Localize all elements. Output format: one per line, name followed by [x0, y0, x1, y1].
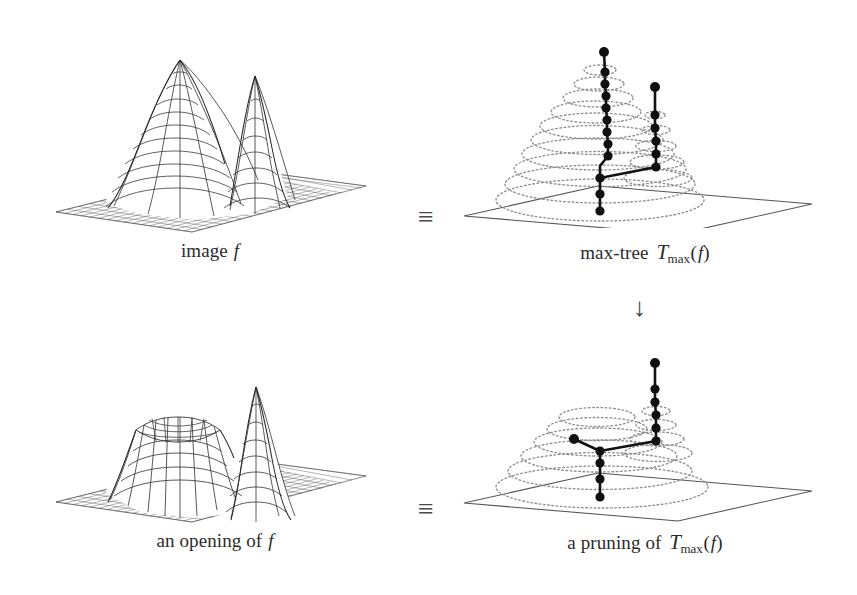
caption-max-tree-subscript: max: [668, 251, 691, 266]
caption-image-f-var: f: [233, 240, 239, 261]
tree-node: [650, 397, 659, 406]
tree-node: [651, 436, 660, 445]
tree-node: [595, 446, 604, 455]
pruned-base-plane: [464, 473, 812, 521]
max-tree-svg: [450, 28, 830, 228]
caption-opening-text: an opening of: [156, 530, 262, 551]
tree-node: [595, 474, 604, 483]
caption-pruning-paren-close: ): [716, 532, 722, 553]
tree-node: [650, 358, 660, 368]
tree-node: [595, 189, 604, 198]
caption-max-tree-symbol: T: [653, 240, 667, 264]
caption-opening: an opening of f: [95, 530, 335, 552]
tree-node: [650, 123, 659, 132]
opening-surface-svg: [44, 340, 374, 530]
caption-image-f-text: image: [181, 240, 228, 261]
opening-surface-panel: [44, 340, 374, 530]
caption-max-tree-text: max-tree: [580, 242, 648, 263]
tree-node: [595, 458, 604, 467]
tree-node: [603, 139, 612, 148]
max-tree-panel: [450, 28, 830, 228]
caption-max-tree: max-tree Tmax(f): [520, 240, 770, 267]
tree-node: [650, 82, 660, 92]
equivalence-symbol-bottom: ≡: [418, 495, 434, 523]
pruned-max-tree-svg: [450, 345, 830, 530]
figure-root: image f ≡: [0, 0, 857, 595]
caption-pruning-paren-open: (: [703, 532, 709, 553]
tree-node: [650, 384, 659, 393]
pruning-arrow: ↓: [633, 295, 646, 321]
image-surface-panel: [44, 18, 374, 236]
tree-node: [651, 149, 660, 158]
caption-pruning-text: a pruning of: [567, 532, 661, 553]
tree-node: [595, 173, 604, 182]
caption-pruning-subscript: max: [680, 541, 703, 556]
tree-node: [595, 206, 604, 215]
tree-node: [569, 434, 579, 444]
tree-node: [600, 67, 609, 76]
tree-base-plane: [464, 186, 812, 228]
pruned-max-tree-panel: [450, 345, 830, 530]
tree-node: [650, 110, 659, 119]
caption-max-tree-paren-open: (: [690, 242, 696, 263]
tree-node: [602, 127, 611, 136]
tree-node: [651, 136, 660, 145]
equivalence-symbol-top: ≡: [418, 203, 434, 231]
caption-image-f: image f: [110, 240, 310, 262]
caption-pruning-symbol: T: [666, 530, 680, 554]
tree-node: [651, 410, 660, 419]
image-surface-svg: [44, 18, 374, 236]
tree-node: [601, 103, 610, 112]
caption-pruning: a pruning of Tmax(f): [505, 530, 785, 557]
opening-plateau-body: [106, 387, 291, 518]
pruned-level-set-contours: [496, 407, 708, 509]
tree-node: [603, 151, 612, 160]
tree-node: [602, 115, 611, 124]
caption-opening-var: f: [267, 530, 273, 551]
tree-node: [651, 162, 660, 171]
tree-node: [600, 79, 609, 88]
tree-node: [651, 423, 660, 432]
tree-node: [601, 91, 610, 100]
tree-node: [595, 492, 604, 501]
caption-max-tree-paren-close: ): [703, 242, 709, 263]
tree-node: [599, 47, 609, 57]
